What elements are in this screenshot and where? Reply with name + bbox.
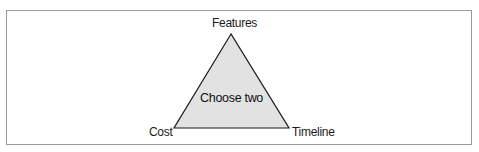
vertex-label-cost: Cost bbox=[149, 125, 172, 139]
center-label: Choose two bbox=[200, 91, 263, 105]
choose-two-triangle bbox=[174, 34, 289, 128]
vertex-label-timeline: Timeline bbox=[292, 125, 335, 139]
vertex-label-features: Features bbox=[212, 16, 257, 30]
